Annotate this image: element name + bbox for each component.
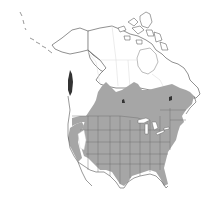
species-range xyxy=(68,70,194,186)
range-map xyxy=(0,0,219,204)
north-america-map-svg xyxy=(0,0,219,204)
